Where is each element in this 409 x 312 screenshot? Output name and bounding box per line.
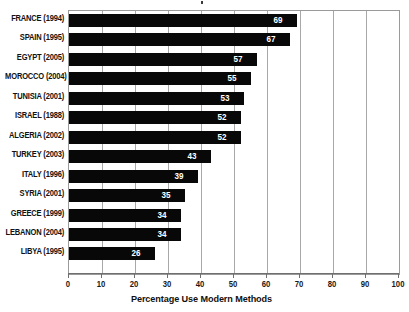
bar-value-label: 57 (226, 53, 250, 66)
top-artifact-mark (201, 1, 203, 4)
x-tick-label: 90 (351, 279, 379, 289)
category-label: FRANCE (1994) (5, 14, 64, 24)
gridline (300, 11, 301, 274)
bar-value-label: 43 (180, 150, 204, 163)
x-tick-label: 20 (120, 279, 148, 289)
category-label: ISRAEL (1988) (5, 111, 64, 121)
x-tick (233, 274, 234, 278)
category-label: TURKEY (2003) (5, 150, 64, 160)
x-tick-label: 50 (219, 279, 247, 289)
bar-value-label: 53 (213, 92, 237, 105)
bar-value-label: 69 (265, 14, 289, 27)
bar-value-label: 35 (153, 189, 177, 202)
bar-value-label: 55 (219, 72, 243, 85)
category-label: SYRIA (2001) (5, 189, 64, 199)
plot-area: 69675755535252433935343426 (68, 10, 400, 275)
bar-value-label: 39 (166, 170, 190, 183)
x-tick (68, 274, 69, 278)
x-tick (167, 274, 168, 278)
x-tick-label: 0 (54, 279, 82, 289)
x-axis-title: Percentage Use Modern Methods (10, 293, 393, 304)
category-label: EGYPT (2005) (5, 53, 64, 63)
category-label: MOROCCO (2004) (5, 72, 64, 82)
x-tick-label: 40 (186, 279, 214, 289)
x-tick (266, 274, 267, 278)
x-tick (332, 274, 333, 278)
bar-value-label: 34 (150, 228, 174, 241)
category-label: TUNISIA (2001) (5, 92, 64, 102)
bar-value-label: 26 (124, 247, 148, 260)
category-label: GREECE (1999) (5, 209, 64, 219)
gridline (366, 11, 367, 274)
category-label: ITALY (1996) (5, 170, 64, 180)
x-tick-label: 30 (153, 279, 181, 289)
bar-value-label: 52 (209, 111, 233, 124)
x-tick-label: 70 (285, 279, 313, 289)
bar-value-label: 67 (259, 33, 283, 46)
x-tick-label: 10 (87, 279, 115, 289)
category-label: LIBYA (1995) (5, 247, 64, 257)
category-label: SPAIN (1995) (5, 33, 64, 43)
bar-value-label: 34 (150, 209, 174, 222)
bar-value-label: 52 (209, 131, 233, 144)
x-tick (299, 274, 300, 278)
category-label: LEBANON (2004) (5, 228, 64, 238)
x-tick (134, 274, 135, 278)
x-tick-label: 100 (384, 279, 409, 289)
x-tick (101, 274, 102, 278)
x-tick (200, 274, 201, 278)
x-tick-label: 80 (318, 279, 346, 289)
gridline (333, 11, 334, 274)
bar (69, 14, 297, 27)
bar (69, 33, 290, 46)
x-tick (398, 274, 399, 278)
category-label: ALGERIA (2002) (5, 131, 64, 141)
x-tick (365, 274, 366, 278)
gridline (267, 11, 268, 274)
x-tick-label: 60 (252, 279, 280, 289)
